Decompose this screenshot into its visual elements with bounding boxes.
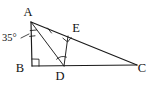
vertex-label-A: A [23, 5, 32, 19]
vertex-label-B: B [16, 61, 24, 75]
angle-tick-A-upper [30, 30, 36, 31]
segment-AB [31, 22, 32, 66]
vertex-label-C: C [138, 61, 146, 75]
vertex-label-E: E [72, 21, 80, 35]
segment-BC [32, 65, 137, 66]
geometry-figure: A B C D E 35° [0, 0, 158, 89]
vertex-label-D: D [55, 69, 64, 83]
geometry-canvas: A B C D E 35° [0, 0, 158, 89]
right-angle-mark-B [32, 59, 39, 66]
angle-measure-label: 35° [2, 32, 17, 43]
angle-tick-A-lower [30, 36, 35, 37]
angle-label-leader-line [21, 34, 29, 38]
